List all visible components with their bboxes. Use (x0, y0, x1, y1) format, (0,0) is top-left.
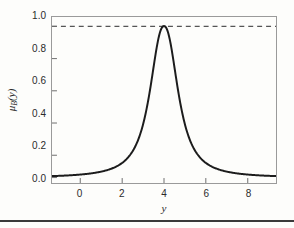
y-tick-label: 0.8 (20, 44, 46, 54)
x-axis-tick-labels: 0 2 4 6 8 (51, 188, 277, 202)
x-tick-label: 4 (153, 188, 175, 200)
y-axis-title-subscript: B (10, 101, 19, 106)
y-axis-ticks (52, 26, 57, 177)
x-axis-ticks (80, 178, 248, 183)
y-tick-label: 1.0 (20, 11, 46, 21)
x-tick-label: 6 (195, 188, 217, 200)
plot-area (51, 16, 277, 184)
x-axis-title: y (51, 202, 277, 214)
x-tick-label: 2 (111, 188, 133, 200)
footer-divider (0, 220, 294, 222)
figure-canvas: 1.0 0.8 0.6 0.4 0.2 0.0 (0, 0, 294, 228)
y-axis-title-mu: μ (5, 106, 17, 112)
y-axis-tick-labels: 1.0 0.8 0.6 0.4 0.2 0.0 (16, 16, 46, 184)
x-tick-label: 8 (238, 188, 260, 200)
y-tick-label: 0.2 (20, 141, 46, 151)
plot-svg (52, 17, 276, 183)
y-tick-label: 0.6 (20, 76, 46, 86)
x-tick-label: 0 (69, 188, 91, 200)
membership-curve (52, 26, 276, 176)
y-axis-title: μB(y) (5, 89, 19, 112)
y-axis-title-wrapper: μB(y) (4, 16, 20, 184)
y-axis-title-argument: (y) (5, 89, 17, 101)
y-tick-label: 0.0 (20, 174, 46, 184)
y-tick-label: 0.4 (20, 109, 46, 119)
